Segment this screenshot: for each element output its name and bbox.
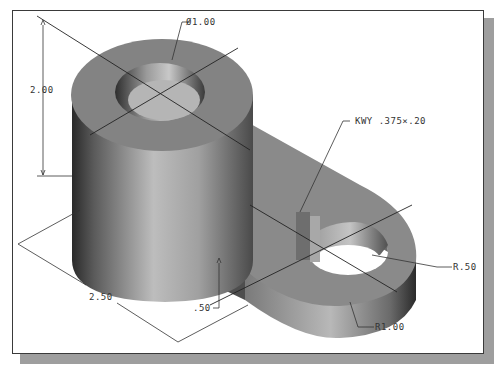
dim-arm-thickness: .50 xyxy=(193,303,211,313)
part-drawing: Ø1.00 2.00 KWY .375×.20 2.50 .50 R.50 R1… xyxy=(0,0,499,367)
dim-eye-outer-radius: R1.00 xyxy=(375,322,405,332)
dim-hole-diameter: Ø1.00 xyxy=(186,17,216,27)
keyway xyxy=(296,212,320,262)
dim-boss-height: 2.00 xyxy=(30,85,54,95)
dim-arm-length: 2.50 xyxy=(89,292,113,302)
dim-eye-hole-radius: R.50 xyxy=(453,262,477,272)
dim-keyway: KWY .375×.20 xyxy=(355,116,426,126)
